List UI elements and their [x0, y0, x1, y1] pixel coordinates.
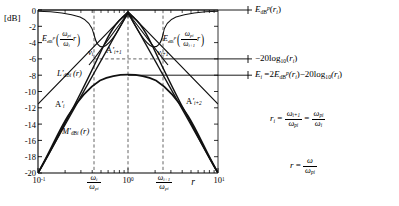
x-axis-label-r: r: [185, 177, 201, 187]
x-tick-1e0: 100: [115, 175, 141, 185]
annotation-minus-20log-ri: −20log10(ri): [255, 53, 297, 64]
annotation-e-db-p-ri: EdBp(ri): [255, 4, 281, 15]
y-tick-0: 0: [12, 6, 36, 16]
y-tick-m8: -8: [12, 71, 36, 81]
y-tick-m6: -6: [12, 54, 36, 64]
figure-bode-error-chart: [dB] 0 -2 -4 -6 -8 -10 -12 -14 -16 -18 -…: [0, 0, 399, 206]
label-e-db-p-left: EdBp( ωpi ωi r): [42, 30, 81, 49]
y-tick-m18: -18: [12, 152, 36, 162]
label-a-prime-i-plus-1: A′i+1: [106, 45, 122, 55]
equation-r-i-definition: ri = ωi+1 ωpi = ωpi ωi: [270, 110, 325, 129]
equation-r-definition: r = ω ωpi: [290, 157, 317, 176]
vertical-construction-lines: [94, 10, 163, 173]
y-tick-m10: -10: [12, 87, 36, 97]
x-tick-wi-over-wpi: ωi ωpi: [80, 174, 108, 192]
label-l-prime-dbi: L′dBi (r): [57, 68, 82, 78]
y-tick-m4: -4: [12, 38, 36, 48]
label-a-prime-i-plus-2: A′i+2: [186, 96, 202, 106]
apex-cluster: [121, 11, 135, 17]
y-tick-marks-right: [214, 26, 218, 156]
annotation-e-i-definition: Ei =2EdBp(ri)−20log10(ri): [255, 69, 342, 80]
x-tick-1e1: 101: [206, 175, 232, 185]
label-a-prime-i: A′i: [55, 99, 64, 109]
label-v-i-plus-1: vi+1: [157, 47, 168, 57]
y-tick-m14: -14: [12, 120, 36, 130]
label-e-db-p-right: EdBp( ωpi ωi+1 r): [163, 30, 205, 49]
y-tick-m2: -2: [12, 22, 36, 32]
x-tick-1e-1: 10-1: [26, 175, 52, 185]
label-v-i: vi: [88, 47, 93, 57]
x-tick-wip1-over-wpi: ωi+1 ωpi: [148, 174, 180, 192]
y-tick-m12: -12: [12, 103, 36, 113]
label-m-prime-dbi: M′dBi (r): [62, 126, 89, 136]
y-tick-m16: -16: [12, 136, 36, 146]
x-tick-marks-top: [65, 10, 214, 15]
